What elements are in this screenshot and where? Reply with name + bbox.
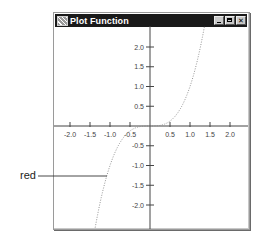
x-tick-label: -1.0 [104, 131, 116, 138]
x-tick-label: -0.5 [124, 131, 136, 138]
callout-label: red [20, 169, 36, 181]
y-tick-label: 1.0 [134, 83, 144, 90]
x-tick-label: 0.5 [165, 131, 175, 138]
x-tick-label: 1.0 [185, 131, 195, 138]
x-tick-label: 2.0 [225, 131, 235, 138]
x-tick-label: -1.5 [84, 131, 96, 138]
y-tick-label: 0.5 [134, 103, 144, 110]
axes: -2.0-1.5-1.0-0.50.51.01.52.02.01.51.00.5… [54, 26, 248, 229]
y-tick-label: -1.5 [132, 182, 144, 189]
plot-area: -2.0-1.5-1.0-0.50.51.01.52.02.01.51.00.5… [0, 0, 267, 238]
x-tick-label: -2.0 [64, 131, 76, 138]
y-tick-label: 1.5 [134, 63, 144, 70]
y-tick-label: -2.0 [132, 202, 144, 209]
x-tick-label: 1.5 [205, 131, 215, 138]
y-tick-label: 2.0 [134, 44, 144, 51]
y-tick-label: -0.5 [132, 142, 144, 149]
y-tick-label: -1.0 [132, 162, 144, 169]
